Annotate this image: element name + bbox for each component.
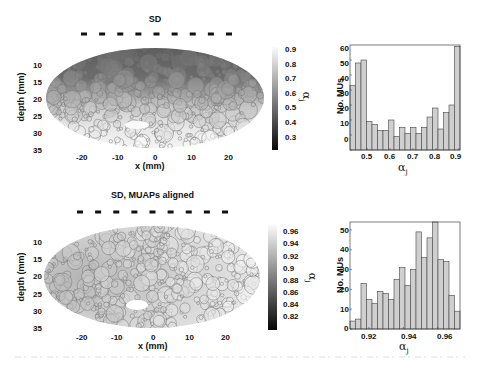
histogram-bottom [350,222,460,329]
electrode-array-bottom [77,211,228,214]
hist-xtick: 0.92 [361,332,377,341]
colorbar-bottom [268,223,277,330]
hist-ytick: 40 [340,74,349,83]
hist-ytick: 50 [340,59,349,68]
cbtick: 0.9 [285,45,296,54]
panel-title-sd: SD [120,14,190,24]
ytick: 10 [33,61,42,70]
hist-ytick: 20 [340,104,349,113]
hist-ytick: 0 [344,324,348,333]
hist-xlabel-top: αj [398,161,408,176]
ytick: 20 [33,272,42,281]
hist-xlabel-bottom: αj [399,340,409,355]
hist-ytick: 50 [340,226,349,235]
ytick: 35 [33,146,42,155]
ytick: 35 [33,324,42,333]
caption-scan-artifact [0,354,477,360]
cbtick: 0.82 [283,312,299,321]
hist-ytick: 30 [340,265,349,274]
map-xlabel-top: x (mm) [135,161,165,171]
hist-ytick: 30 [340,89,349,98]
map-ylabel-top: depth (mm) [16,62,26,132]
cbtick: 0.88 [283,276,299,285]
hist-ytick: 40 [340,245,349,254]
hist-xtick: 0.96 [437,332,453,341]
ytick: 20 [33,95,42,104]
xtick: -10 [111,333,123,342]
cbtick: 0.96 [283,227,299,236]
ytick: 15 [33,78,42,87]
ytick: 15 [33,255,42,264]
cbtick: 0.5 [285,103,296,112]
electrode-array-top [81,33,232,36]
ytick: 25 [33,112,42,121]
xtick: 10 [187,153,196,162]
hist-xtick: 0.5 [361,152,372,161]
figure-canvas [0,0,477,366]
cbtick: 0.8 [285,60,296,69]
cbtick: 0.92 [283,252,299,261]
ytick: 30 [33,307,42,316]
hist-ytick: 10 [340,119,349,128]
cbtick: 0.3 [285,133,296,142]
xtick: -20 [76,333,88,342]
hist-ytick: 0 [344,135,348,144]
map-ylabel-bottom: depth (mm) [16,242,26,312]
cbtick: 0.84 [283,300,299,309]
hist-ylabel-bottom: No. MUs [335,245,345,305]
xtick: 20 [221,333,230,342]
colorbar-top [272,47,278,150]
cbtick: 0.4 [285,118,296,127]
colorbar-label-top: αj [298,92,313,102]
histogram-top [350,45,460,150]
panel-title-sd-aligned: SD, MUAPs aligned [100,190,205,200]
map-xlabel-bottom: x (mm) [138,341,168,351]
xtick: 10 [185,333,194,342]
cbtick: 0.94 [283,239,299,248]
xtick: -20 [76,153,88,162]
ytick: 30 [33,129,42,138]
colorbar-label-bottom: αj [304,273,319,283]
hist-xtick: 0.8 [429,152,440,161]
hist-xtick: 0.6 [384,152,395,161]
ytick: 10 [33,238,42,247]
hist-xtick: 0.9 [450,152,461,161]
ytick: 25 [33,290,42,299]
hist-ytick: 60 [340,44,349,53]
cbtick: 0.9 [283,264,294,273]
hist-xtick: 0.7 [407,152,418,161]
xtick: 20 [224,153,233,162]
xtick: -10 [112,153,124,162]
cbtick: 0.6 [285,89,296,98]
cbtick: 0.86 [283,288,299,297]
hist-ytick: 10 [340,305,349,314]
hist-ytick: 20 [340,285,349,294]
cbtick: 0.7 [285,74,296,83]
